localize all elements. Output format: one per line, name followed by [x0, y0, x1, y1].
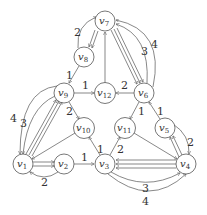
edge-v3-v4-curve-a	[111, 172, 180, 182]
edge-v7-v8-b	[92, 31, 98, 48]
edge-label-v9-v10: 2	[66, 105, 73, 118]
node-v3: v3	[95, 154, 115, 174]
edge-label-v6-v12: 2	[121, 79, 128, 92]
edge-label-v2-v3: 1	[81, 151, 88, 164]
edge-label-v9-v1-b: 3	[20, 117, 27, 130]
edge-label-v8-v9: 1	[66, 69, 73, 82]
edge-v9-v1-curve-b	[23, 96, 55, 154]
node-v10: v10	[74, 118, 95, 139]
nodes: v1 v2 v3 v4 v5 v6 v7 v8 v9 v10 v11 v12	[13, 11, 196, 174]
node-v9: v9	[54, 83, 74, 103]
graph-diagram: 2 1 1 2 3 4 2 1 1 1 2 4 3 2 1 3 4 2 v1 v…	[0, 0, 207, 215]
edge-v1-v9-c	[32, 102, 62, 156]
edge-v7-v8-a	[89, 30, 95, 47]
edge-label-v3-v11: 2	[117, 143, 124, 156]
node-v6: v6	[134, 83, 154, 103]
edge-label-v6-v11: 1	[138, 105, 145, 118]
node-v5: v5	[155, 118, 175, 138]
edge-labels: 2 1 1 2 3 4 2 1 1 1 2 4 3 2 1 3 4 2	[10, 26, 194, 208]
edge-label-v3-v4-b: 4	[142, 195, 149, 208]
edge-label-v8-v7: 2	[74, 26, 81, 39]
edge-v11-v4	[134, 133, 177, 159]
edge-label-v2-v1: 2	[41, 176, 48, 189]
edge-v4-v5-b	[173, 136, 182, 155]
node-v2: v2	[54, 154, 74, 174]
node-v11: v11	[115, 118, 136, 139]
edge-label-v4-v5: 2	[187, 136, 194, 149]
edge-label-v9-v12: 1	[82, 79, 89, 92]
edge-label-v5-v6: 1	[157, 105, 164, 118]
node-v4: v4	[176, 154, 196, 174]
node-v12: v12	[95, 83, 116, 104]
node-v8: v8	[74, 47, 94, 67]
edge-v7-v6-c	[117, 28, 143, 82]
edge-label-v6-v7-a: 3	[141, 45, 148, 58]
node-v7: v7	[95, 11, 115, 31]
edge-label-v6-v7-b: 4	[151, 38, 158, 51]
edge-v7-v6-a	[111, 30, 137, 84]
edge-label-v3-v4-a: 3	[142, 182, 149, 195]
edge-v1-v9-a	[26, 100, 56, 154]
edge-label-v9-v1-a: 4	[10, 112, 17, 125]
edge-v6-v7-curve-b	[116, 20, 155, 87]
edge-v1-v9-b	[29, 101, 59, 155]
edge-v4-v5-a	[170, 137, 179, 157]
node-v1: v1	[13, 154, 33, 174]
